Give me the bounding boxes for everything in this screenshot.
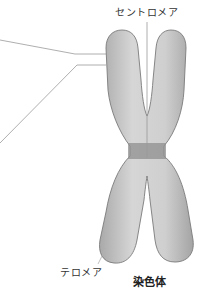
diagram-title: 染色体: [133, 277, 166, 288]
leader-lines: [0, 40, 106, 143]
leader-line-lower: [0, 65, 106, 143]
chromosome-diagram: [0, 0, 205, 291]
centromere-label: セントロメア: [115, 8, 178, 18]
leader-line-upper: [0, 40, 106, 54]
telomere-label: テロメア: [60, 268, 102, 278]
